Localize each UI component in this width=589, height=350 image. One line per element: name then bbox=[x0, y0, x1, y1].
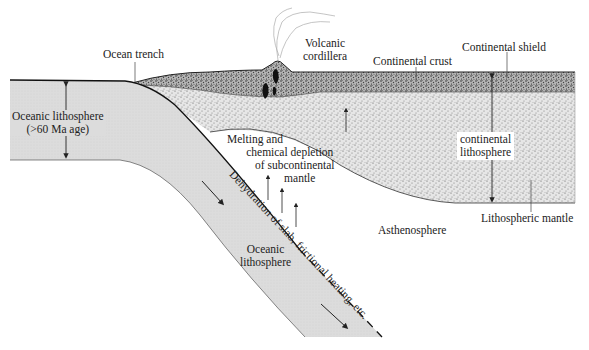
volcanic-cordillera-line1: Volcanic bbox=[303, 37, 347, 50]
volcanic-cordillera-label: Volcanic cordillera bbox=[303, 37, 347, 63]
continental-lithosphere-label: continental lithosphere bbox=[457, 132, 514, 160]
continental-shield-label: Continental shield bbox=[462, 41, 546, 54]
oceanic-lithosphere-line2: (>60 Ma age) bbox=[10, 123, 106, 136]
oceanic-slab-line1: Oceanic bbox=[240, 243, 291, 256]
continental-crust-label: Continental crust bbox=[373, 55, 452, 68]
lithospheric-mantle-label: Lithospheric mantle bbox=[481, 212, 573, 225]
continental-lithosphere-line2: lithosphere bbox=[460, 146, 511, 159]
ocean-trench-label: Ocean trench bbox=[103, 48, 164, 61]
volcanic-cordillera-line2: cordillera bbox=[303, 50, 347, 63]
asthenosphere-label: Asthenosphere bbox=[378, 224, 446, 237]
melting-line1: Melting and bbox=[227, 133, 335, 146]
continental-lithosphere-line1: continental bbox=[460, 133, 511, 146]
oceanic-slab-line2: lithosphere bbox=[240, 256, 291, 269]
melting-line2: chemical depletion bbox=[227, 146, 335, 159]
oceanic-lithosphere-slab-label: Oceanic lithosphere bbox=[240, 243, 291, 269]
oceanic-lithosphere-top-label: Oceanic lithosphere (>60 Ma age) bbox=[10, 110, 106, 136]
oceanic-lithosphere-line1: Oceanic lithosphere bbox=[10, 110, 106, 123]
melting-line3: of subcontinental bbox=[227, 159, 335, 172]
